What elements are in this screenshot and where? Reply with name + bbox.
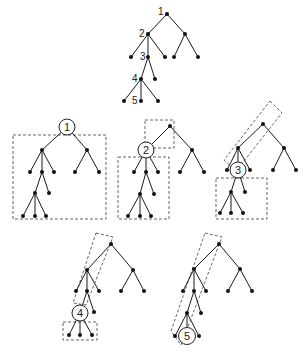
panel-4: 4 — [63, 233, 146, 340]
panel-1: 1 — [13, 119, 106, 219]
node-label-4: 4 — [132, 73, 138, 84]
panel-5: 5 — [171, 233, 254, 345]
current-node-label: 4 — [77, 307, 83, 319]
top-tree: 1 2 3 4 5 — [122, 6, 200, 106]
current-node-label: 1 — [64, 121, 70, 133]
node-label-2: 2 — [139, 28, 145, 39]
panel-2: 2 — [118, 120, 206, 219]
node-label-1: 1 — [158, 6, 164, 17]
current-node-label: 3 — [235, 164, 241, 176]
current-node-label: 2 — [143, 144, 149, 156]
dashed-path-band — [73, 233, 113, 305]
node-label-3: 3 — [140, 51, 146, 62]
dashed-region-bottom — [118, 157, 169, 219]
node-label-5: 5 — [132, 95, 138, 106]
dashed-region — [13, 135, 106, 219]
current-node-label: 5 — [184, 330, 190, 342]
tree-diagram: 1 2 3 4 5 1 — [0, 0, 308, 354]
panel-3: 3 — [216, 101, 298, 219]
